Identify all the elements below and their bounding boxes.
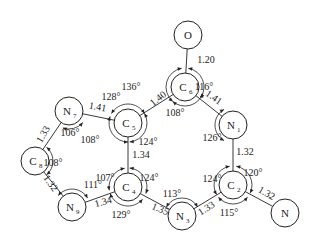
- angle-label: 128°: [102, 91, 121, 102]
- angle-label: 113°: [163, 188, 182, 199]
- atom-symbol: O: [184, 29, 192, 41]
- angle-label: 108°: [81, 134, 100, 145]
- bond-length-label: 1.33: [196, 199, 217, 218]
- arrowhead-icon: [188, 67, 192, 71]
- atom-symbol: C: [122, 117, 129, 129]
- atom-subscript: 5: [132, 124, 136, 132]
- atom-symbol: N: [63, 105, 71, 117]
- bond-length-label: 1.33: [34, 124, 52, 145]
- angle-label: 124°: [139, 136, 158, 147]
- atom-subscript: 9: [76, 208, 80, 216]
- atom-N7: N7: [55, 97, 83, 125]
- arrowhead-icon: [120, 167, 124, 171]
- atoms-layer: OC6N7C5N1C8C4C2N9N3N: [21, 21, 299, 230]
- arrowhead-icon: [236, 165, 240, 169]
- atom-N1: N1: [219, 111, 247, 139]
- arrowhead-icon: [225, 165, 229, 169]
- angle-label: 111°: [84, 179, 102, 190]
- atom-symbol: C: [179, 81, 186, 93]
- arrowhead-icon: [107, 186, 111, 190]
- atom-O: O: [174, 21, 202, 49]
- bond-length-label: 1.32: [236, 146, 254, 157]
- atom-subscript: 3: [186, 217, 190, 225]
- angle-label: 108°: [44, 157, 63, 168]
- angle-label: 108°: [166, 107, 185, 118]
- arrowhead-icon: [177, 67, 181, 71]
- bond-length-label: 1.34: [93, 194, 113, 209]
- atom-symbol: C: [29, 155, 36, 167]
- bond-length-label: 1.34: [132, 149, 150, 160]
- angle-label: 115°: [220, 207, 239, 218]
- atom-symbol: N: [66, 201, 74, 213]
- molecule-diagram: OC6N7C5N1C8C4C2N9N3N 1.201.401.411.411.3…: [0, 0, 318, 247]
- atom-subscript: 2: [237, 186, 241, 194]
- arrowhead-icon: [124, 140, 128, 144]
- atom-N3: N3: [168, 202, 196, 230]
- angle-label: 124°: [203, 173, 222, 184]
- atom-N: N: [271, 199, 299, 227]
- atom-symbol: C: [227, 179, 234, 191]
- angle-label: 106°: [61, 127, 80, 138]
- atom-symbol: N: [281, 207, 289, 219]
- angle-label: 124°: [140, 172, 159, 183]
- atom-subscript: 4: [132, 188, 136, 196]
- arrowhead-icon: [173, 102, 177, 106]
- atom-subscript: 7: [73, 112, 77, 120]
- bond-length-label: 1.32: [41, 173, 60, 194]
- angle-label: 129°: [112, 209, 131, 220]
- bond-length-label: 1.40: [148, 89, 169, 108]
- atom-subscript: 6: [189, 88, 193, 96]
- atom-symbol: C: [122, 181, 129, 193]
- angle-label: 136°: [122, 81, 141, 92]
- angle-label: 116°: [195, 81, 214, 92]
- atom-subscript: 8: [39, 162, 43, 170]
- angle-label: 120°: [244, 167, 263, 178]
- atom-N9: N9: [58, 193, 86, 221]
- atom-C5: C5: [114, 109, 142, 137]
- bond-length-label: 1.20: [197, 54, 215, 65]
- atom-symbol: N: [176, 210, 184, 222]
- angle-label: 126°: [203, 132, 222, 143]
- arrowhead-icon: [146, 189, 149, 193]
- atom-C4: C4: [114, 173, 142, 201]
- atom-symbol: N: [227, 119, 235, 131]
- atom-subscript: 1: [237, 126, 241, 134]
- bond-length-label: 1.35: [150, 200, 170, 217]
